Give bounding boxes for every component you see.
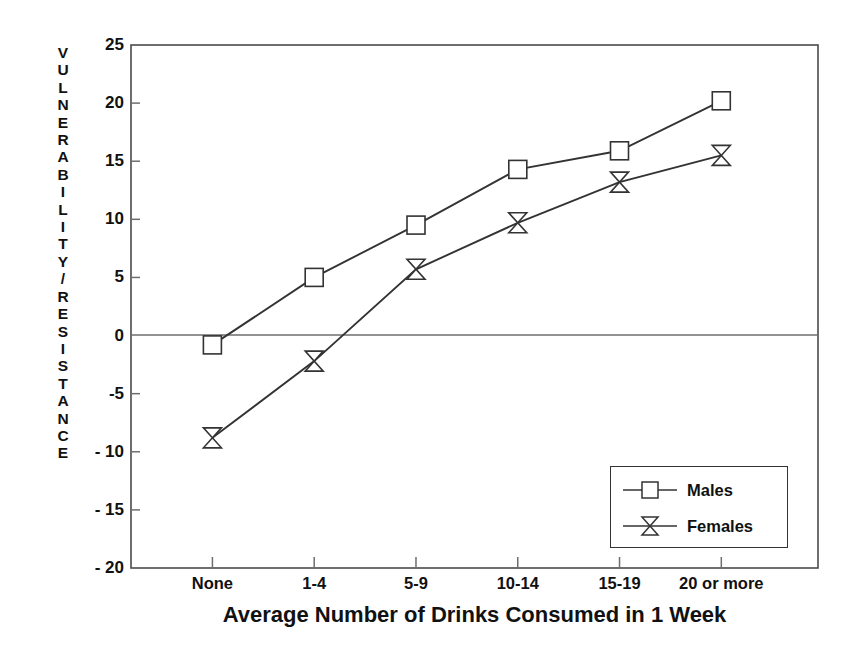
x-tick-label: 5-9 xyxy=(404,574,428,593)
x-tick-label: 1-4 xyxy=(302,574,326,593)
legend-marker-bowtie xyxy=(619,513,681,539)
legend-label-males: Males xyxy=(687,481,733,500)
legend-marker-square xyxy=(619,477,681,503)
x-tick-label: 10-14 xyxy=(497,574,539,593)
legend-label-females: Females xyxy=(687,517,753,536)
x-axis-tick-labels: None1-45-910-1415-1920 or more xyxy=(0,0,859,662)
chart-figure: VULNERABILITY/RESISTANCE 2520151050-5- 1… xyxy=(0,0,859,662)
legend-entry-males: Males xyxy=(611,473,787,507)
chart-legend: Males Females xyxy=(610,466,788,548)
x-axis-title: Average Number of Drinks Consumed in 1 W… xyxy=(131,602,818,628)
x-tick-label: 15-19 xyxy=(598,574,640,593)
legend-entry-females: Females xyxy=(611,509,787,543)
x-tick-label: 20 or more xyxy=(679,574,763,593)
x-tick-label: None xyxy=(192,574,233,593)
